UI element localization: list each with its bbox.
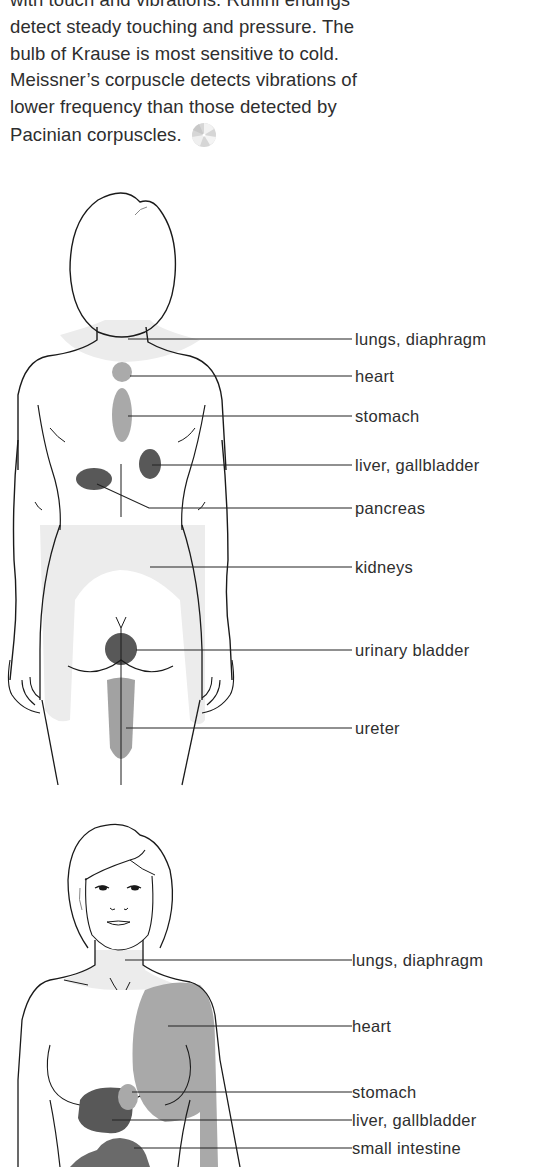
label-heart: heart [355,366,394,386]
text-line: lower frequency than those detected by [10,94,430,121]
heart-zone [133,982,219,1167]
stomach-zone [112,388,132,442]
label-heart: heart [352,1016,391,1036]
label-liver-gallbladder: liver, gallbladder [352,1110,477,1130]
text-line: bulb of Krause is most sensitive to cold… [10,41,430,68]
lungs-zone [60,320,200,362]
disc-icon [186,121,222,149]
figure-front-view: lungs, diaphragm heart stomach liver, ga… [0,800,549,1167]
label-lungs-diaphragm: lungs, diaphragm [355,329,486,349]
label-urinary-bladder: urinary bladder [355,640,470,660]
label-stomach: stomach [355,406,419,426]
small-intestine-zone [70,1138,150,1167]
label-small-intestine: small intestine [352,1138,461,1158]
stomach-zone [118,1084,138,1110]
label-ureter: ureter [355,718,400,738]
pancreas-zone [76,468,112,490]
text-line: Meissner’s corpuscle detects vibrations … [10,67,430,94]
label-liver-gallbladder: liver, gallbladder [355,455,480,475]
heart-zone [112,362,132,382]
text-line: with touch and vibrations. Ruffini endin… [10,0,430,14]
back-view-illustration [0,180,549,800]
label-stomach: stomach [352,1082,416,1102]
liver-zone [139,449,161,479]
label-kidneys: kidneys [355,557,413,577]
text-line-last: Pacinian corpuscles. [10,121,430,149]
figure-back-view: lungs, diaphragm heart stomach liver, ga… [0,180,549,800]
label-lungs-diaphragm: lungs, diaphragm [352,950,483,970]
text-line: detect steady touching and pressure. The [10,14,430,41]
label-pancreas: pancreas [355,498,425,518]
body-paragraph: with touch and vibrations. Ruffini endin… [10,0,430,149]
